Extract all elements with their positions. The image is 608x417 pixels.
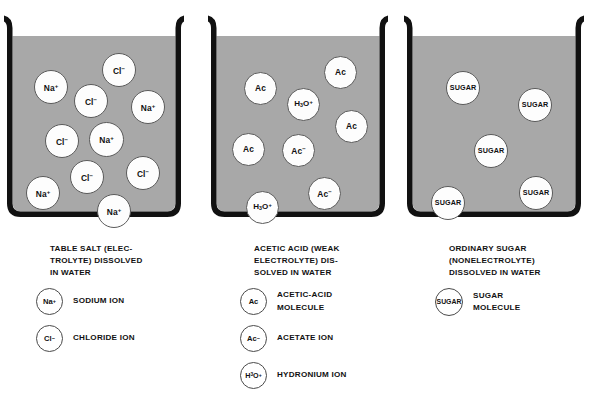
panel-table-salt: Na+Cl−Cl−Na+Cl−Na+Cl−Cl−Na+Na+TABLE SALT…: [4, 0, 204, 417]
molecule-sugar: SUGAR: [518, 88, 552, 122]
molecule-label: Ac: [335, 68, 346, 76]
molecule-cl: Cl−: [45, 124, 79, 158]
beaker-acetic-acid: AcAcH3O+AcAcAc−Ac−H3O+: [208, 14, 388, 220]
molecule-h3o: H3O+: [246, 191, 279, 224]
molecule-h3o: H3O+: [287, 88, 320, 121]
molecule-label: H3O+: [294, 100, 313, 109]
molecule-label: Ac: [346, 122, 357, 130]
molecule-na: Na+: [97, 194, 131, 228]
legend-label-line: MOLECULE: [473, 302, 520, 314]
molecule-label: SUGAR: [435, 199, 461, 206]
legend-label: ACETATE ION: [277, 332, 333, 344]
molecule-label: Ac: [243, 145, 254, 153]
molecule-ac: Ac−: [282, 134, 315, 167]
caption-line: ACETIC ACID (WEAK: [254, 243, 340, 255]
panel-ordinary-sugar: SUGARSUGARSUGARSUGARSUGARORDINARY SUGAR(…: [404, 0, 604, 417]
legend-label-line: MOLECULE: [277, 302, 332, 314]
legend-chip: Ac−: [240, 325, 267, 352]
caption-line: TABLE SALT (ELEC-: [50, 243, 142, 255]
molecule-label: Cl−: [85, 97, 97, 106]
legend-item-ac: Ac−ACETATE ION: [240, 325, 333, 352]
beaker-table-salt: Na+Cl−Cl−Na+Cl−Na+Cl−Cl−Na+Na+: [4, 14, 184, 220]
molecule-na: Na+: [34, 70, 68, 104]
molecule-label: Ac−: [291, 146, 306, 155]
molecule-label: Na+: [36, 189, 51, 198]
molecule-cl: Cl−: [74, 84, 108, 118]
legend-chip: Ac: [240, 288, 267, 315]
molecule-ac: Ac: [324, 56, 357, 89]
legend-chip: Na+: [36, 288, 63, 315]
legend-item-na: Na+SODIUM ION: [36, 288, 124, 315]
molecule-label: Cl−: [56, 137, 68, 146]
legend-label-line: ACETATE ION: [277, 332, 333, 344]
legend-chip: SUGAR: [435, 288, 463, 316]
molecule-sugar: SUGAR: [431, 186, 465, 220]
molecule-cl: Cl−: [102, 53, 136, 87]
caption-table-salt: TABLE SALT (ELEC-TROLYTE) DISSOLVEDIN WA…: [50, 243, 142, 279]
legend-item-h3o: H3O+HYDRONIUM ION: [240, 362, 347, 389]
molecule-label: SUGAR: [478, 147, 504, 154]
legend-label: SUGARMOLECULE: [473, 290, 520, 314]
legend-label: CHLORIDE ION: [73, 332, 135, 344]
caption-ordinary-sugar: ORDINARY SUGAR(NONELECTROLYTE)DISSOLVED …: [449, 243, 541, 279]
molecule-label: SUGAR: [450, 84, 476, 91]
legend-item-sugar: SUGARSUGARMOLECULE: [435, 288, 520, 316]
molecule-label: Cl−: [81, 173, 93, 182]
molecule-cl: Cl−: [70, 160, 104, 194]
caption-acetic-acid: ACETIC ACID (WEAKELECTROLYTE) DIS-SOLVED…: [254, 243, 340, 279]
legend-label: SODIUM ION: [73, 295, 124, 307]
legend-label-line: CHLORIDE ION: [73, 332, 135, 344]
molecule-label: Ac−: [317, 189, 332, 198]
molecule-label: Ac: [255, 84, 266, 92]
molecule-label: SUGAR: [523, 189, 549, 196]
legend-label-line: HYDRONIUM ION: [277, 369, 347, 381]
caption-line: SOLVED IN WATER: [254, 267, 340, 279]
figure-canvas: Na+Cl−Cl−Na+Cl−Na+Cl−Cl−Na+Na+TABLE SALT…: [0, 0, 608, 417]
caption-line: IN WATER: [50, 267, 142, 279]
molecule-label: Cl−: [113, 66, 125, 75]
molecule-sugar: SUGAR: [446, 71, 480, 105]
caption-line: TROLYTE) DISSOLVED: [50, 255, 142, 267]
legend-chip: H3O+: [240, 362, 267, 389]
molecule-na: Na+: [131, 90, 165, 124]
legend-chip: Cl−: [36, 325, 63, 352]
molecule-cl: Cl−: [126, 156, 160, 190]
legend-label-line: SUGAR: [473, 290, 520, 302]
legend-label: HYDRONIUM ION: [277, 369, 347, 381]
molecule-sugar: SUGAR: [474, 134, 508, 168]
caption-line: (NONELECTROLYTE): [449, 255, 541, 267]
caption-line: DISSOLVED IN WATER: [449, 267, 541, 279]
legend-item-ac: AcACETIC-ACIDMOLECULE: [240, 288, 332, 315]
legend-label-line: ACETIC-ACID: [277, 289, 332, 301]
caption-line: ELECTROLYTE) DIS-: [254, 255, 340, 267]
molecule-label: SUGAR: [522, 101, 548, 108]
molecule-label: Cl−: [137, 169, 149, 178]
beaker-ordinary-sugar: SUGARSUGARSUGARSUGARSUGAR: [404, 14, 584, 220]
molecule-label: Na+: [141, 103, 156, 112]
panel-acetic-acid: AcAcH3O+AcAcAc−Ac−H3O+ACETIC ACID (WEAKE…: [208, 0, 408, 417]
molecule-label: Na+: [107, 207, 122, 216]
molecule-na: Na+: [89, 122, 124, 157]
molecule-label: Na+: [44, 83, 59, 92]
molecule-ac: Ac: [335, 110, 368, 143]
legend-label-line: SODIUM ION: [73, 295, 124, 307]
molecule-sugar: SUGAR: [519, 176, 553, 210]
molecule-na: Na+: [26, 176, 60, 210]
caption-line: ORDINARY SUGAR: [449, 243, 541, 255]
molecule-label: H3O+: [253, 203, 272, 212]
molecule-label: Na+: [99, 135, 114, 144]
legend-label: ACETIC-ACIDMOLECULE: [277, 289, 332, 313]
molecule-ac: Ac: [232, 133, 265, 166]
legend-item-cl: Cl−CHLORIDE ION: [36, 325, 135, 352]
molecule-ac: Ac: [244, 72, 277, 105]
molecule-ac: Ac−: [308, 177, 341, 210]
